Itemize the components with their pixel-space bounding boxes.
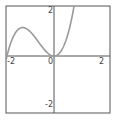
plot-frame (6, 6, 110, 113)
y-tick-label-2: 2 (48, 6, 53, 15)
x-tick-label-neg2: -2 (7, 57, 15, 66)
y-tick-label-neg2: -2 (45, 100, 53, 109)
function-plot: -2 0 2 2 -2 (0, 0, 115, 120)
plot-area (6, 2, 110, 113)
x-tick-label-0: 0 (48, 57, 53, 66)
x-tick-label-2: 2 (99, 57, 104, 66)
